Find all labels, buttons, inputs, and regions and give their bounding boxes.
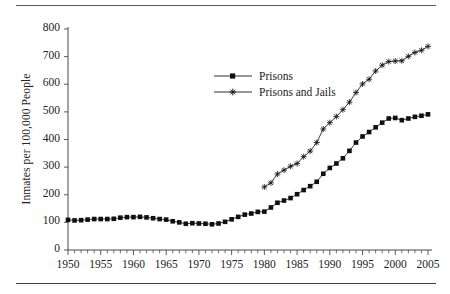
legend-item-prisons-and-jails: Prisons and Jails [213,84,336,100]
data-point-marker [340,107,346,113]
data-point-marker [400,118,405,123]
data-point-marker [301,188,306,193]
legend-label-prisons-and-jails: Prisons and Jails [259,85,336,99]
data-point-marker [308,184,313,189]
data-point-marker [327,120,333,126]
data-point-marker [386,59,392,65]
data-point-marker [274,171,280,177]
axis-ticks [64,29,428,255]
data-point-marker [307,148,313,154]
data-point-marker [131,215,136,220]
data-point-marker [288,163,294,169]
y-tick-label: 100 [26,214,60,226]
data-point-marker [197,221,202,226]
data-point-marker [216,221,221,226]
data-point-marker [399,58,405,64]
data-point-marker [118,215,123,220]
y-tick-label: 300 [26,159,60,171]
data-point-marker [190,221,195,226]
plot-area [0,0,450,294]
data-point-marker [229,217,234,222]
data-point-marker [138,215,143,220]
data-point-marker [392,58,398,64]
data-point-marker [66,218,71,223]
data-point-marker [405,53,411,59]
data-point-marker [341,156,346,161]
data-point-marker [223,220,228,225]
data-point-marker [301,154,307,160]
data-point-marker [275,200,280,205]
data-point-marker [346,99,352,105]
data-point-marker [79,218,84,223]
y-tick-label: 700 [26,49,60,61]
data-point-marker [386,116,391,121]
data-point-marker [261,184,267,190]
data-point-marker [242,212,247,217]
data-point-marker [418,47,424,53]
legend-sample-star [213,85,253,99]
data-point-marker [321,171,326,176]
legend-label-prisons: Prisons [259,69,293,83]
data-point-marker [184,221,189,226]
data-point-marker [144,215,149,220]
data-point-marker [268,180,274,186]
y-tick-label: 200 [26,187,60,199]
data-point-marker [282,198,287,203]
data-point-marker [236,215,241,220]
data-point-marker [360,81,366,87]
y-tick-label: 500 [26,104,60,116]
data-point-marker [157,217,162,222]
data-point-marker [419,113,424,118]
data-point-marker [373,68,379,74]
data-point-marker [164,217,169,222]
data-point-marker [366,76,372,82]
data-point-marker [203,221,208,226]
data-point-marker [281,167,287,173]
data-point-marker [210,222,215,227]
data-point-marker [367,130,372,135]
data-point-marker [360,134,365,139]
data-point-marker [426,112,431,117]
data-point-marker [347,149,352,154]
data-point-marker [249,211,254,216]
data-point-marker [425,43,431,49]
series-line-prisons [68,114,428,224]
data-point-marker [373,125,378,130]
data-point-marker [353,90,359,96]
y-tick-label: 400 [26,132,60,144]
data-point-marker [380,120,385,125]
data-point-marker [413,115,418,120]
data-point-marker [379,62,385,68]
data-point-marker [170,219,175,224]
legend-sample-square [213,69,253,83]
data-point-marker [412,49,418,55]
chart-legend: Prisons Prisons and Jails [213,68,336,100]
data-point-marker [333,114,339,120]
data-point-marker [393,116,398,121]
data-point-marker [269,205,274,210]
data-point-marker [314,140,320,146]
data-point-marker [406,116,411,121]
y-tick-label: 600 [26,76,60,88]
data-point-marker [256,210,261,215]
data-point-marker [72,218,77,223]
data-point-marker [288,196,293,201]
data-point-marker [262,209,267,214]
y-tick-label: 800 [26,21,60,33]
chart-figure: Inmates per 100,000 People 0100200300400… [0,0,450,294]
data-point-marker [328,166,333,171]
data-point-marker [105,217,110,222]
data-point-marker [354,140,359,145]
data-point-marker [294,161,300,167]
y-tick-label: 0 [26,242,60,254]
data-point-marker [151,216,156,221]
data-point-marker [85,217,90,222]
legend-item-prisons: Prisons [213,68,336,84]
data-point-marker [92,217,97,222]
data-point-marker [334,161,339,166]
data-point-marker [320,126,326,132]
data-point-marker [314,179,319,184]
x-tick-label: 2005 [406,258,450,270]
data-point-marker [112,216,117,221]
data-point-marker [177,220,182,225]
